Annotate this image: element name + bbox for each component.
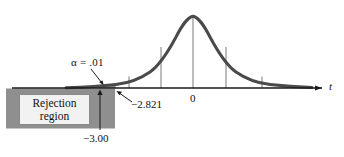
critical-value-leader-line xyxy=(119,93,133,103)
alpha-leader-line xyxy=(91,69,102,83)
t-axis-label: t xyxy=(329,81,332,92)
rejection-region-label-line2: region xyxy=(40,110,69,123)
rejection-region-label-line1: Rejection xyxy=(32,97,76,110)
figure-canvas xyxy=(0,0,344,157)
rejection-region-label-box: Rejection region xyxy=(19,94,90,125)
alpha-label: α = .01 xyxy=(71,57,104,68)
t-axis-arrowhead xyxy=(315,86,322,91)
observed-value-label: −3.00 xyxy=(83,133,108,144)
distribution-curve xyxy=(66,16,312,88)
center-tick-label: 0 xyxy=(190,93,196,104)
t-distribution-rejection-region-figure: Rejection region α = .01 −2.821 −3.00 0 … xyxy=(0,0,344,157)
critical-value-label: −2.821 xyxy=(131,99,162,110)
